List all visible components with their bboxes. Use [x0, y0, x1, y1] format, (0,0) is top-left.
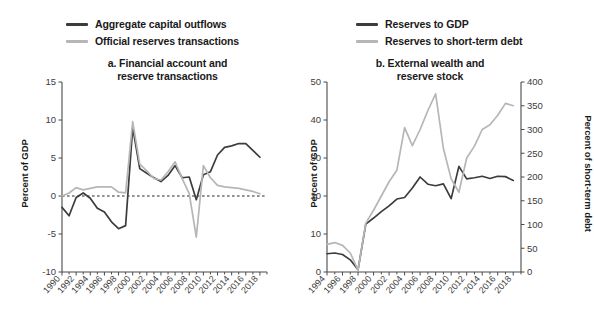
legend-label-aggregate-capital-outflows: Aggregate capital outflows	[95, 18, 227, 30]
svg-text:2008: 2008	[415, 274, 436, 296]
legend-label-official-reserves-transactions: Official reserves transactions	[95, 35, 239, 47]
svg-text:2006: 2006	[399, 274, 420, 296]
legend-item: Reserves to short-term debt	[356, 34, 522, 48]
svg-text:20: 20	[310, 190, 321, 201]
svg-text:1994: 1994	[306, 274, 327, 296]
svg-text:350: 350	[527, 100, 543, 111]
svg-text:300: 300	[527, 124, 543, 135]
svg-text:200: 200	[527, 171, 543, 182]
svg-text:50: 50	[527, 243, 538, 254]
legend-item: Aggregate capital outflows	[66, 17, 239, 31]
series-line-reserves-to-gdp	[327, 166, 513, 269]
legend-item: Official reserves transactions	[66, 34, 239, 48]
svg-text:2018: 2018	[239, 274, 260, 296]
svg-text:2010: 2010	[430, 274, 451, 296]
svg-text:15: 15	[45, 76, 56, 87]
panel-b-svg: 0102030405005010015020025030035040019941…	[285, 70, 591, 331]
svg-text:40: 40	[310, 114, 321, 125]
svg-text:100: 100	[527, 219, 543, 230]
panel-a-plot: -10-505101519901992199419961998200020022…	[0, 70, 285, 331]
svg-text:2000: 2000	[353, 274, 374, 296]
svg-text:0: 0	[51, 190, 56, 201]
svg-text:5: 5	[51, 152, 56, 163]
legend-swatch-aggregate-capital-outflows	[66, 23, 88, 26]
svg-text:1996: 1996	[322, 274, 343, 296]
svg-text:150: 150	[527, 195, 543, 206]
svg-text:2004: 2004	[384, 274, 405, 296]
legend-label-reserves-to-short-term-debt: Reserves to short-term debt	[385, 35, 522, 47]
svg-text:0: 0	[527, 266, 532, 277]
legend-panel-b: Reserves to GDP Reserves to short-term d…	[356, 17, 522, 48]
svg-text:50: 50	[310, 76, 321, 87]
series-line-aggregate-capital-outflows	[62, 128, 260, 229]
legend-label-reserves-to-gdp: Reserves to GDP	[385, 18, 469, 30]
legend-item: Reserves to GDP	[356, 17, 522, 31]
svg-text:10: 10	[45, 114, 56, 125]
svg-text:1998: 1998	[337, 274, 358, 296]
svg-text:10: 10	[310, 228, 321, 239]
legend-swatch-reserves-to-short-term-debt	[356, 40, 378, 43]
legend-swatch-reserves-to-gdp	[356, 23, 378, 26]
svg-text:400: 400	[527, 76, 543, 87]
panel-a-svg: -10-505101519901992199419961998200020022…	[0, 70, 285, 331]
legend-swatch-official-reserves-transactions	[66, 40, 88, 43]
svg-text:2012: 2012	[446, 274, 467, 296]
svg-text:2014: 2014	[461, 274, 482, 296]
svg-text:250: 250	[527, 148, 543, 159]
svg-text:2016: 2016	[477, 274, 498, 296]
series-line-reserves-to-short-term-debt	[327, 94, 513, 270]
svg-text:30: 30	[310, 152, 321, 163]
legend-panel-a: Aggregate capital outflows Official rese…	[66, 17, 239, 48]
series-line-official-reserves-transactions	[62, 122, 260, 238]
svg-text:-5: -5	[48, 228, 56, 239]
panel-b-plot: 0102030405005010015020025030035040019941…	[285, 70, 591, 331]
svg-text:2018: 2018	[492, 274, 513, 296]
svg-text:2002: 2002	[368, 274, 389, 296]
